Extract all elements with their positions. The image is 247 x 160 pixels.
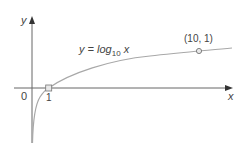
y-axis-arrow-icon bbox=[29, 16, 35, 24]
log-graph: y x 0 1 (10, 1) y = log10 x bbox=[0, 0, 247, 160]
point-1-0 bbox=[46, 85, 52, 91]
point-annotation-10-1: (10, 1) bbox=[184, 33, 213, 44]
equation-suffix: x bbox=[121, 43, 130, 55]
equation-prefix: y = log bbox=[78, 43, 113, 55]
point-10-1 bbox=[196, 48, 201, 53]
x-axis-label: x bbox=[227, 90, 234, 102]
origin-label: 0 bbox=[21, 90, 27, 102]
equation-label: y = log10 x bbox=[78, 43, 130, 58]
y-axis-label: y bbox=[20, 14, 28, 26]
x-tick-label-1: 1 bbox=[46, 92, 52, 103]
log-curve bbox=[33, 48, 233, 143]
